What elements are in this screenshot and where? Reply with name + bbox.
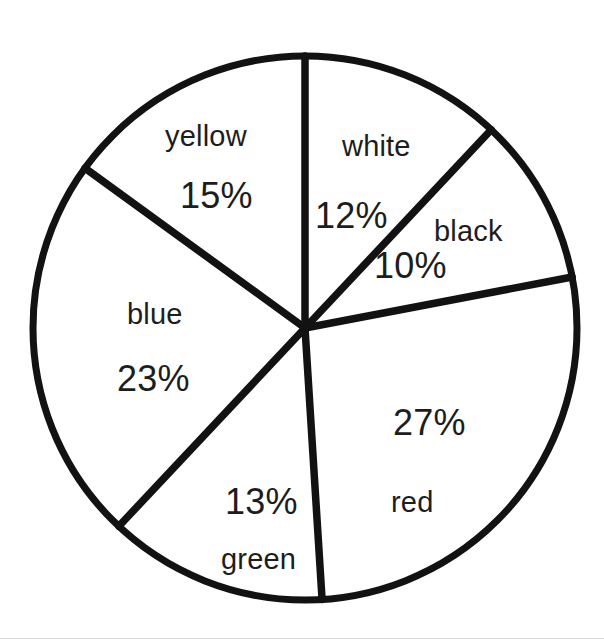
slice-label-green-name: green [221,545,296,574]
slice-label-blue-name: blue [127,300,183,329]
pie-chart-graphic [0,0,604,644]
slice-label-black-value: 10% [374,248,447,284]
slice-label-white-name: white [342,132,411,161]
slice-label-yellow-name: yellow [165,122,247,151]
slice-label-red-value: 27% [393,405,466,441]
slice-label-yellow-value: 15% [180,178,253,214]
slice-label-red-name: red [391,488,434,517]
slice-label-black-name: black [434,217,503,246]
slice-label-green-value: 13% [225,484,298,520]
slice-label-blue-value: 23% [117,361,190,397]
slice-label-white-value: 12% [315,198,388,234]
page-edge-line [0,638,604,639]
pie-chart-figure: yellow 15% white 12% black 10% 27% red 1… [0,0,604,644]
